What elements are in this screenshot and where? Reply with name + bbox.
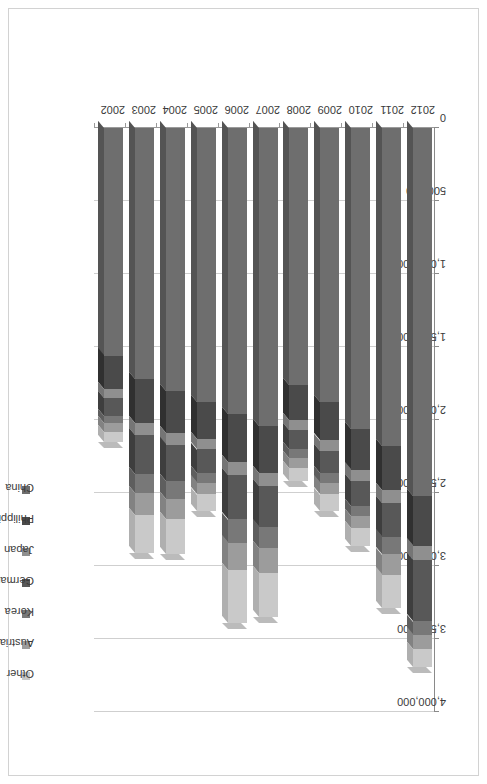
value-axis-label: 0 xyxy=(440,112,446,124)
bar-segment-china xyxy=(166,128,185,391)
value-axis-tick xyxy=(434,419,439,420)
value-axis-tick xyxy=(434,273,439,274)
bar-segment-philippines xyxy=(289,385,308,420)
bar-end-cap xyxy=(253,617,278,623)
bar-segment-other xyxy=(104,432,123,442)
bar-segment-korea xyxy=(413,622,432,635)
category-label: 2011 xyxy=(380,104,404,116)
bar-segment-top-face xyxy=(345,121,351,429)
bar-segment-china xyxy=(413,128,432,496)
value-axis-tick xyxy=(434,346,439,347)
bar-segment-austria xyxy=(197,483,216,495)
category-axis-tick xyxy=(310,123,311,128)
bar-segment-top-face xyxy=(253,566,259,617)
bar-segment-other xyxy=(382,575,401,609)
legend-label: Philippines xyxy=(0,513,34,525)
category-label: 2003 xyxy=(132,104,156,116)
category-axis-tick xyxy=(249,123,250,128)
bar-row xyxy=(166,128,185,712)
bar-segment-austria xyxy=(382,554,401,574)
category-axis-tick xyxy=(94,123,95,128)
bar-segment-japan xyxy=(197,439,216,449)
bar-segment-top-face xyxy=(160,121,166,391)
bar-end-cap xyxy=(191,511,216,517)
legend-label: Japan xyxy=(4,544,34,556)
bar-segment-korea xyxy=(351,506,370,516)
bar-segment-top-face xyxy=(191,121,197,403)
category-axis-tick xyxy=(279,123,280,128)
legend-label: China xyxy=(5,482,34,494)
bar-row xyxy=(382,128,401,712)
bar-segment-germany xyxy=(104,398,123,416)
bar-segment-austria xyxy=(289,458,308,468)
value-axis-tick xyxy=(434,200,439,201)
value-axis-tick xyxy=(434,565,439,566)
bar-end-cap xyxy=(222,623,247,629)
bar-row xyxy=(135,128,154,712)
bar-row xyxy=(197,128,216,712)
category-axis-tick xyxy=(218,123,219,128)
bar-segment-china xyxy=(135,128,154,379)
bar-segment-austria xyxy=(320,483,339,495)
bar-segment-korea xyxy=(104,416,123,423)
bar-segment-other xyxy=(413,649,432,667)
bar-segment-other xyxy=(228,570,247,623)
category-label: 2009 xyxy=(317,104,341,116)
bar-segment-germany xyxy=(320,451,339,473)
bar-segment-top-face xyxy=(407,121,413,496)
bar-end-cap xyxy=(160,554,185,560)
bar-segment-top-face xyxy=(222,563,228,623)
bar-segment-japan xyxy=(104,389,123,398)
plot-area: 4,000,0003,500,0003,000,0002,500,0002,00… xyxy=(94,128,434,712)
bar-segment-china xyxy=(197,128,216,402)
bar-segment-top-face xyxy=(98,121,104,356)
bar-segment-other xyxy=(135,515,154,553)
bar-segment-top-face xyxy=(129,121,135,379)
category-label: 2010 xyxy=(348,104,372,116)
bar-segment-korea xyxy=(135,474,154,493)
bar-segment-philippines xyxy=(413,496,432,546)
category-label: 2006 xyxy=(225,104,249,116)
bar-segment-japan xyxy=(289,420,308,430)
bar-segment-top-face xyxy=(129,372,135,423)
bar-segment-austria xyxy=(135,493,154,515)
value-axis-tick xyxy=(434,492,439,493)
bar-end-cap xyxy=(376,608,401,614)
legend-label: Germany xyxy=(0,575,34,587)
bar-row xyxy=(228,128,247,712)
bar-segment-top-face xyxy=(376,121,382,446)
bar-segment-germany xyxy=(351,481,370,506)
bar-segment-austria xyxy=(413,635,432,650)
bar-segment-top-face xyxy=(314,395,320,440)
bar-segment-philippines xyxy=(259,426,278,473)
bar-segment-china xyxy=(320,128,339,402)
bar-row xyxy=(259,128,278,712)
bar-segment-korea xyxy=(320,473,339,483)
category-label: 2005 xyxy=(194,104,218,116)
bar-segment-germany xyxy=(228,475,247,519)
legend-label: Other xyxy=(6,668,34,680)
category-axis-tick xyxy=(403,123,404,128)
category-label: 2004 xyxy=(163,104,187,116)
bar-segment-top-face xyxy=(376,568,382,609)
bar-segment-philippines xyxy=(166,391,185,433)
bar-segment-japan xyxy=(382,490,401,503)
bar-segment-top-face xyxy=(283,121,289,385)
bar-segment-philippines xyxy=(382,446,401,490)
bar-segment-china xyxy=(351,128,370,429)
bar-segment-korea xyxy=(382,537,401,555)
category-axis-tick xyxy=(372,123,373,128)
value-axis-tick xyxy=(434,638,439,639)
bar-segment-austria xyxy=(104,423,123,432)
bar-segment-germany xyxy=(166,445,185,482)
bar-segment-philippines xyxy=(104,356,123,390)
bar-segment-other xyxy=(259,573,278,617)
bar-segment-philippines xyxy=(351,429,370,470)
bar-end-cap xyxy=(98,442,123,448)
bar-segment-japan xyxy=(259,473,278,486)
bar-end-cap xyxy=(283,481,308,487)
bar-end-cap xyxy=(314,511,339,517)
category-label: 2008 xyxy=(286,104,310,116)
bar-segment-korea xyxy=(259,527,278,549)
bar-segment-china xyxy=(382,128,401,446)
